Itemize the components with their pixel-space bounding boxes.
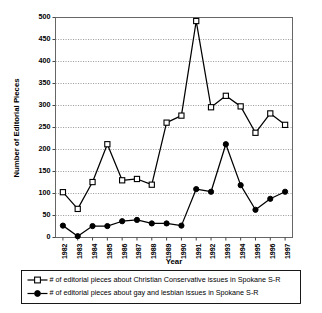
data-point-s0-1985 [105,142,110,147]
data-point-s0-1992 [208,105,213,110]
data-point-s0-1991 [194,18,199,23]
data-point-s0-1997 [282,122,287,127]
data-point-s1-1996 [268,196,273,201]
data-point-s0-1988 [149,182,154,187]
y-tick-label-400: 400 [39,56,51,65]
data-point-s0-1986 [120,178,125,183]
data-series-group [60,18,287,238]
y-axis-tick-labels: 050100150200250300350400450500 [39,12,51,241]
x-tick-label-1986: 1986 [121,243,128,259]
x-tick-label-1984: 1984 [91,243,98,259]
series-line-1 [63,144,285,236]
y-tick-label-200: 200 [39,144,51,153]
y-tick-label-0: 0 [47,232,51,241]
x-tick-label-1991: 1991 [195,243,202,259]
data-point-s1-1994 [238,183,243,188]
data-point-s0-1984 [90,179,95,184]
data-point-s1-1982 [60,223,65,228]
x-axis-title: Year [166,257,182,266]
data-point-s0-1994 [238,104,243,109]
x-tick-label-1985: 1985 [106,243,113,259]
y-tick-label-150: 150 [39,166,51,175]
data-point-s1-1995 [253,207,258,212]
legend-marker-1 [35,291,41,297]
y-tick-label-100: 100 [39,188,51,197]
y-gridlines [56,40,293,216]
data-point-s0-1993 [223,93,228,98]
data-point-s1-1992 [208,189,213,194]
x-tick-label-1993: 1993 [224,243,231,259]
editorial-pieces-line-chart: Number of Editorial Pieces 0501001502002… [0,0,322,313]
x-tick-label-1996: 1996 [269,243,276,259]
series-line-0 [63,21,285,209]
data-point-s1-1984 [90,223,95,228]
y-tick-label-300: 300 [39,100,51,109]
legend-marker-0 [35,277,41,283]
data-point-s0-1989 [164,120,169,125]
data-point-s1-1988 [149,221,154,226]
y-tick-label-350: 350 [39,78,51,87]
x-tick-label-1997: 1997 [284,243,291,259]
data-point-s1-1985 [105,223,110,228]
x-tick-label-1995: 1995 [254,243,261,259]
data-point-s1-1990 [179,223,184,228]
y-tick-label-50: 50 [43,210,51,219]
data-point-s1-1997 [282,189,287,194]
y-tick-label-500: 500 [39,12,51,21]
data-point-s1-1993 [223,142,228,147]
data-point-s1-1986 [120,219,125,224]
data-point-s1-1991 [194,187,199,192]
x-tick-label-1988: 1988 [150,243,157,259]
data-point-s0-1982 [60,190,65,195]
data-point-s0-1996 [268,111,273,116]
legend-label-0: # of editorial pieces about Christian Co… [50,275,281,284]
data-point-s1-1989 [164,221,169,226]
x-tick-label-1982: 1982 [61,243,68,259]
y-tick-label-450: 450 [39,34,51,43]
data-point-s0-1987 [134,176,139,181]
y-axis-title: Number of Editorial Pieces [12,78,21,178]
y-axis-title-group: Number of Editorial Pieces [12,78,21,178]
chart-container: Number of Editorial Pieces 0501001502002… [0,0,322,313]
x-tick-label-1992: 1992 [209,243,216,259]
data-point-s0-1990 [179,113,184,118]
x-tick-label-1987: 1987 [135,243,142,259]
data-point-s1-1983 [75,234,80,239]
x-tick-label-1994: 1994 [239,243,246,259]
y-tick-label-250: 250 [39,122,51,131]
data-point-s1-1987 [134,217,139,222]
legend-label-1: # of editorial pieces about gay and lesb… [50,288,259,297]
chart-legend: # of editorial pieces about Christian Co… [22,271,301,304]
data-point-s0-1983 [75,206,80,211]
data-point-s0-1995 [253,130,258,135]
x-tick-label-1983: 1983 [76,243,83,259]
